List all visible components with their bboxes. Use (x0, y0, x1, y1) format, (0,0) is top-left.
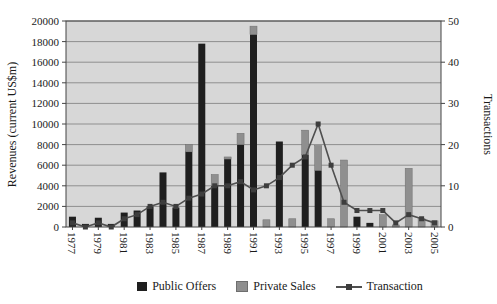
x-axis-label-1989: 1989 (222, 232, 234, 255)
left-axis-tick-label: 20000 (32, 15, 60, 27)
left-axis-tick-label: 6000 (37, 159, 60, 171)
left-axis-tick-label: 2000 (37, 200, 60, 212)
bar-public-offers-1991 (250, 34, 257, 227)
transaction-line-swatch-icon (336, 282, 362, 291)
transaction-marker-1994 (290, 163, 295, 168)
x-axis-label-1987: 1987 (196, 232, 208, 255)
transaction-marker-1986 (186, 196, 191, 201)
transaction-marker-2004 (419, 216, 424, 221)
legend-item-public-offers: Public Offers (137, 279, 216, 294)
bar-public-offers-1989 (224, 159, 231, 227)
transaction-marker-1997 (329, 163, 334, 168)
transaction-marker-2003 (406, 212, 411, 217)
bar-private-sales-2003 (405, 168, 412, 227)
chart-legend: Public Offers Private Sales Transaction (120, 277, 440, 295)
transaction-marker-1984 (160, 200, 165, 205)
transaction-marker-1982 (135, 212, 140, 217)
legend-public-offers-label: Public Offers (152, 279, 216, 294)
bar-public-offers-1983 (147, 206, 154, 227)
transaction-marker-2005 (432, 220, 437, 225)
bar-private-sales-1989 (224, 157, 231, 159)
transaction-marker-1983 (148, 204, 153, 209)
bar-public-offers-1988 (211, 186, 218, 227)
bar-public-offers-1995 (302, 155, 309, 227)
x-axis-label-2001: 2001 (377, 232, 389, 254)
right-axis-title: Transactions (480, 40, 495, 210)
bar-private-sales-1986 (185, 145, 192, 152)
bar-public-offers-2000 (366, 223, 373, 227)
bar-public-offers-1986 (185, 152, 192, 227)
bar-public-offers-1999 (353, 217, 360, 227)
transaction-marker-1981 (122, 216, 127, 221)
public-offers-swatch-icon (137, 282, 147, 291)
bar-private-sales-1994 (289, 219, 296, 227)
bar-public-offers-1985 (172, 207, 179, 227)
transaction-marker-1996 (316, 122, 321, 127)
x-axis-label-2003: 2003 (403, 232, 415, 255)
revenues-transactions-chart: 0200040006000800010000120001400016000180… (0, 0, 497, 304)
left-axis-tick-label: 8000 (37, 139, 60, 151)
bar-public-offers-1984 (159, 172, 166, 227)
right-axis-tick-label: 10 (448, 180, 460, 192)
left-axis-tick-label: 4000 (37, 180, 60, 192)
right-axis-tick-label: 20 (448, 139, 460, 151)
transaction-marker-1988 (212, 183, 217, 188)
left-axis-tick-label: 12000 (32, 97, 60, 109)
transaction-marker-1993 (277, 175, 282, 180)
left-axis-tick-label: 10000 (32, 118, 60, 130)
transaction-marker-1987 (199, 192, 204, 197)
bar-private-sales-1997 (328, 219, 335, 227)
right-axis-tick-label: 30 (448, 97, 460, 109)
x-axis-label-1981: 1981 (118, 232, 130, 254)
transaction-marker-1992 (264, 183, 269, 188)
x-axis-label-1983: 1983 (144, 232, 156, 255)
left-axis-title: Revenues (current US$m) (5, 40, 20, 210)
left-axis-tick-label: 18000 (32, 36, 60, 48)
transaction-marker-1998 (342, 200, 347, 205)
legend-item-private-sales: Private Sales (236, 279, 315, 294)
legend-item-transaction: Transaction (336, 279, 423, 294)
legend-private-sales-label: Private Sales (253, 279, 315, 294)
bar-public-offers-1993 (276, 142, 283, 227)
x-axis-label-1997: 1997 (325, 232, 337, 255)
transaction-marker-1977 (70, 220, 75, 225)
transaction-marker-1990 (238, 179, 243, 184)
bar-private-sales-1996 (315, 146, 322, 171)
x-axis-label-1999: 1999 (351, 232, 363, 255)
x-axis-label-1993: 1993 (273, 232, 285, 255)
transaction-marker-2001 (380, 208, 385, 213)
bar-private-sales-2001 (379, 215, 386, 227)
left-axis-tick-label: 16000 (32, 56, 60, 68)
transaction-marker-1991 (251, 187, 256, 192)
chart-plot-area: 0200040006000800010000120001400016000180… (0, 0, 497, 304)
bar-private-sales-1992 (263, 220, 270, 227)
x-axis-label-1991: 1991 (248, 232, 260, 254)
x-axis-label-1977: 1977 (66, 232, 78, 255)
bar-public-offers-1990 (237, 145, 244, 227)
transaction-marker-2000 (367, 208, 372, 213)
transaction-marker-1985 (173, 204, 178, 209)
bar-private-sales-1990 (237, 133, 244, 144)
x-axis-label-1985: 1985 (170, 232, 182, 255)
right-axis-tick-label: 50 (448, 15, 460, 27)
legend-transaction-label: Transaction (367, 279, 423, 294)
transaction-marker-1995 (303, 154, 308, 159)
x-axis-label-2005: 2005 (429, 232, 441, 255)
bar-public-offers-1987 (198, 44, 205, 227)
transaction-marker-2002 (393, 220, 398, 225)
bar-private-sales-1991 (250, 26, 257, 34)
transaction-marker-1989 (225, 183, 230, 188)
transaction-marker-1979 (96, 220, 101, 225)
private-sales-swatch-icon (236, 281, 248, 292)
right-axis-tick-label: 0 (448, 221, 454, 233)
x-axis-label-1979: 1979 (92, 232, 104, 255)
x-axis-label-1995: 1995 (299, 232, 311, 255)
transaction-marker-1999 (354, 208, 359, 213)
left-axis-tick-label: 14000 (32, 77, 60, 89)
left-axis-tick-label: 0 (54, 221, 60, 233)
bar-public-offers-1996 (315, 170, 322, 227)
right-axis-tick-label: 40 (448, 56, 460, 68)
